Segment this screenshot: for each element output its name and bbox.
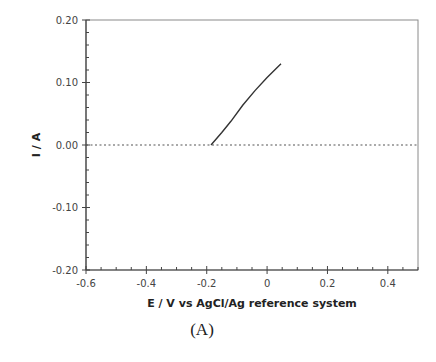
x-axis-tick-labels: -0.6-0.4-0.200.20.4: [76, 278, 396, 289]
x-tick-label: 0: [264, 278, 270, 289]
y-axis-title: I / A: [30, 132, 43, 157]
x-tick-label: -0.4: [137, 278, 157, 289]
x-tick-label: -0.2: [197, 278, 217, 289]
x-tick-label: -0.6: [76, 278, 96, 289]
y-tick-label: 0.20: [56, 15, 78, 26]
data-series: [211, 64, 281, 145]
x-tick-label: 0.4: [380, 278, 396, 289]
series-line: [211, 64, 281, 145]
y-tick-label: 0.10: [56, 77, 78, 88]
y-tick-label: -0.10: [52, 202, 78, 213]
figure-caption: (A): [190, 320, 214, 339]
y-axis-tick-labels: 0.200.100.00-0.10-0.20: [52, 15, 78, 276]
y-tick-label: 0.00: [56, 140, 78, 151]
x-axis-title: E / V vs AgCl/Ag reference system: [147, 297, 357, 310]
x-tick-label: 0.2: [320, 278, 336, 289]
chart: 0.200.100.00-0.10-0.20 -0.6-0.4-0.200.20…: [0, 0, 436, 362]
y-tick-label: -0.20: [52, 265, 78, 276]
